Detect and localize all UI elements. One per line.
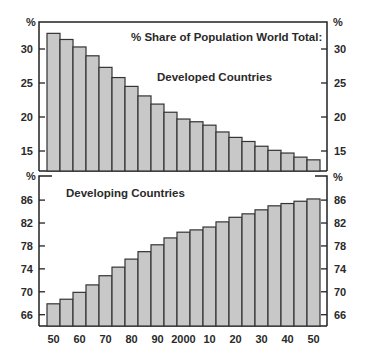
bar-developing-1995	[164, 238, 177, 326]
developing-label: Developing Countries	[66, 187, 185, 199]
bar-developed-1970	[99, 67, 112, 171]
x-label: 60	[73, 333, 85, 345]
bar-developing-1960	[73, 292, 86, 326]
bar-developed-1955	[60, 39, 73, 171]
x-label: 70	[99, 333, 111, 345]
x-axis-labels: 506070809020001020304050	[47, 333, 319, 345]
developed-chart: 1515202025253030 % Share of Population W…	[21, 16, 347, 171]
bar-developing-1990	[151, 245, 164, 326]
y-label-right: 74	[334, 263, 347, 275]
bar-developed-2035	[268, 150, 281, 171]
x-label: 90	[151, 333, 163, 345]
bar-developing-1975	[112, 267, 125, 326]
bar-developing-2015	[216, 222, 229, 326]
bar-developing-1965	[86, 285, 99, 326]
y-label-right: 82	[334, 217, 346, 229]
x-label: 40	[281, 333, 293, 345]
bar-developed-2025	[242, 141, 255, 171]
bar-developing-2035	[268, 206, 281, 326]
bar-developed-1980	[125, 86, 138, 171]
bar-developed-1985	[138, 96, 151, 171]
y-label-left: 74	[21, 263, 34, 275]
developed-bars	[47, 33, 320, 171]
bar-developed-1965	[86, 56, 99, 171]
bar-developed-1995	[164, 112, 177, 171]
developing-left-percent: %	[26, 170, 36, 182]
x-label: 50	[47, 333, 59, 345]
developing-right-percent: %	[333, 171, 343, 183]
bar-developed-2040	[281, 153, 294, 171]
bar-developing-2020	[229, 217, 242, 326]
y-label-left: 30	[21, 43, 33, 55]
bar-developing-2025	[242, 214, 255, 326]
bar-developed-2020	[229, 137, 242, 171]
bar-developing-1985	[138, 252, 151, 326]
y-label-right: 20	[334, 111, 346, 123]
developed-right-percent: %	[333, 16, 343, 28]
bar-developing-2010	[203, 227, 216, 326]
y-label-left: 86	[21, 194, 33, 206]
y-label-left: 25	[21, 77, 33, 89]
bar-developing-2040	[281, 204, 294, 326]
bar-developed-2005	[190, 122, 203, 171]
y-label-right: 66	[334, 309, 346, 321]
bar-developed-1960	[73, 47, 86, 171]
bar-developing-2045	[294, 201, 307, 326]
developed-label: Developed Countries	[157, 71, 272, 83]
bar-developed-2045	[294, 157, 307, 171]
chart-title: % Share of Population World Total:	[131, 31, 322, 43]
y-label-left: 20	[21, 111, 33, 123]
bar-developed-1950	[47, 33, 60, 171]
bar-developed-2000	[177, 119, 190, 171]
y-label-right: 86	[334, 194, 346, 206]
y-label-left: 15	[21, 145, 33, 157]
bar-developed-1975	[112, 78, 125, 171]
bar-developed-2050	[307, 160, 320, 171]
bar-developed-2010	[203, 125, 216, 171]
x-label: 20	[229, 333, 241, 345]
population-share-chart: 1515202025253030 % Share of Population W…	[0, 0, 365, 360]
x-label: 50	[307, 333, 319, 345]
developing-chart: 666670707474787882828686 506070809020001…	[21, 170, 347, 345]
y-label-right: 25	[334, 77, 346, 89]
x-label: 10	[203, 333, 215, 345]
y-label-right: 70	[334, 286, 346, 298]
bar-developing-2030	[255, 210, 268, 326]
bar-developing-2005	[190, 230, 203, 326]
bar-developing-1970	[99, 276, 112, 326]
developed-left-percent: %	[26, 16, 36, 28]
y-label-right: 78	[334, 240, 346, 252]
bar-developed-1990	[151, 104, 164, 171]
bar-developing-1980	[125, 259, 138, 326]
x-label: 2000	[171, 333, 195, 345]
bar-developing-2050	[307, 199, 320, 326]
bar-developed-2015	[216, 132, 229, 171]
bar-developing-2000	[177, 232, 190, 326]
y-label-right: 30	[334, 43, 346, 55]
y-label-left: 82	[21, 217, 33, 229]
x-label: 30	[255, 333, 267, 345]
bar-developed-2030	[255, 146, 268, 171]
x-label: 80	[125, 333, 137, 345]
developing-bars	[47, 199, 320, 326]
y-label-left: 70	[21, 286, 33, 298]
y-label-right: 15	[334, 145, 346, 157]
y-label-left: 78	[21, 240, 33, 252]
bar-developing-1950	[47, 304, 60, 326]
y-label-left: 66	[21, 309, 33, 321]
bar-developing-1955	[60, 299, 73, 326]
